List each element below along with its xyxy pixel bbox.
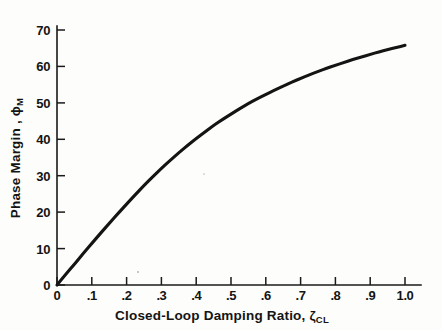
y-tick-label: 70 [36,23,50,38]
x-tick-label: .1 [87,288,97,303]
x-tick-label: .2 [122,288,132,303]
x-tick-label: .3 [156,288,166,303]
data-curve [57,45,405,285]
y-tick-label: 0 [43,278,50,293]
x-tick-label: .4 [191,288,202,303]
x-axis-title-text: Closed-Loop Damping Ratio, ζ [115,308,316,323]
y-tick-label: 60 [36,59,50,74]
y-tick-label: 20 [36,205,50,220]
x-tick-label: .8 [330,288,340,303]
phase-margin-plot: 0 10 20 30 40 50 60 70 0 .1 .2 .3 .4 .5 … [0,0,442,330]
y-axis-title-text: Phase Margin , ϕ [8,106,23,218]
svg-text:Closed-Loop Damping Ratio, ζCL: Closed-Loop Damping Ratio, ζCL [115,308,329,325]
y-axis-title: Phase Margin , ϕM [8,98,25,218]
x-tick-label: .6 [261,288,271,303]
y-axis-title-subscript: M [14,98,25,106]
y-axis-ticks [57,30,65,285]
x-axis-ticks [57,277,405,285]
scan-speck [203,173,205,175]
y-tick-label: 50 [36,96,50,111]
y-tick-label: 10 [36,242,50,257]
x-tick-label: .5 [226,288,236,303]
y-tick-label: 40 [36,132,50,147]
x-tick-labels: 0 .1 .2 .3 .4 .5 .6 .7 .8 .9 1.0 [54,288,414,303]
y-tick-label: 30 [36,169,50,184]
x-tick-label: 1.0 [397,288,414,303]
x-axis-title: Closed-Loop Damping Ratio, ζCL [115,308,329,325]
x-tick-label: 0 [54,288,61,303]
x-axis-title-subscript: CL [316,314,329,325]
svg-text:Phase Margin , ϕM: Phase Margin , ϕM [8,98,25,218]
scan-speck [137,271,139,273]
x-tick-label: .9 [365,288,375,303]
y-tick-labels: 0 10 20 30 40 50 60 70 [36,23,50,293]
chart-figure: 0 10 20 30 40 50 60 70 0 .1 .2 .3 .4 .5 … [0,0,442,330]
x-tick-label: .7 [296,288,306,303]
